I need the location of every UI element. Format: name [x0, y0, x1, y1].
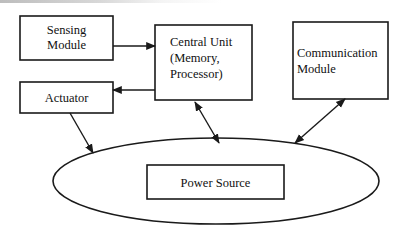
power-source-label: Power Source [181, 176, 251, 190]
central-unit-label-line2: (Memory, [170, 51, 220, 65]
actuator-label: Actuator [45, 91, 90, 105]
communication-module-label-line1: Communication [297, 46, 378, 60]
communication-module-node: Communication Module [293, 22, 388, 99]
arrow-actuator-to-power [70, 113, 93, 153]
central-unit-node: Central Unit (Memory, Processor) [155, 25, 252, 100]
central-unit-label-line3: Processor) [170, 67, 223, 81]
sensor-node-architecture-diagram: Power Source Sensing Module Actuator Cen… [0, 0, 403, 236]
actuator-node: Actuator [20, 82, 113, 113]
communication-module-label-line2: Module [297, 62, 336, 76]
central-unit-label-line1: Central Unit [170, 35, 233, 49]
arrow-communication-power-bidirectional [295, 99, 345, 143]
power-source-node: Power Source [147, 165, 284, 199]
sensing-module-label-line1: Sensing [47, 23, 87, 37]
sensing-module-label-line2: Module [47, 38, 86, 52]
sensing-module-node: Sensing Module [20, 16, 113, 60]
arrow-central-power-bidirectional [195, 102, 219, 143]
